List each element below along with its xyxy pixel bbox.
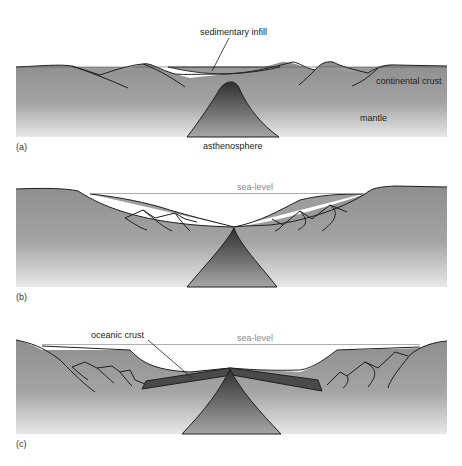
label-continental-crust: continental crust — [376, 76, 442, 86]
panel-label-c: (c) — [16, 439, 27, 449]
label-mantle: mantle — [360, 113, 387, 123]
panel-a: sedimentary infill continental crust man… — [16, 27, 447, 152]
panel-label-b: (b) — [16, 292, 27, 302]
label-sea-level: sea-level — [237, 333, 273, 343]
panel-label-a: (a) — [16, 142, 27, 152]
label-asthenosphere: asthenosphere — [203, 141, 263, 151]
label-sedimentary-infill: sedimentary infill — [200, 27, 267, 37]
label-oceanic-crust: oceanic crust — [91, 330, 145, 340]
panel-b: sea-level (b) — [16, 182, 447, 302]
label-sea-level: sea-level — [237, 182, 273, 192]
rift-evolution-diagram: sedimentary infill continental crust man… — [0, 0, 462, 466]
panel-c: oceanic crust sea-level (c) — [16, 330, 447, 449]
